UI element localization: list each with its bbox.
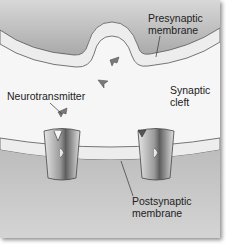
synaptic-cleft-label: Synaptic cleft [170,84,210,108]
neurotransmitter-label: Neurotransmitter [7,90,85,102]
postsynaptic-membrane-label: Postsynaptic membrane [132,195,192,219]
receptor-left [44,129,80,181]
synapse-diagram: Presynaptic membrane Synaptic cleft Neur… [0,0,220,238]
receptor-right [138,129,174,181]
postsynaptic-cell [0,150,220,238]
presynaptic-membrane-label: Presynaptic membrane [148,12,203,36]
